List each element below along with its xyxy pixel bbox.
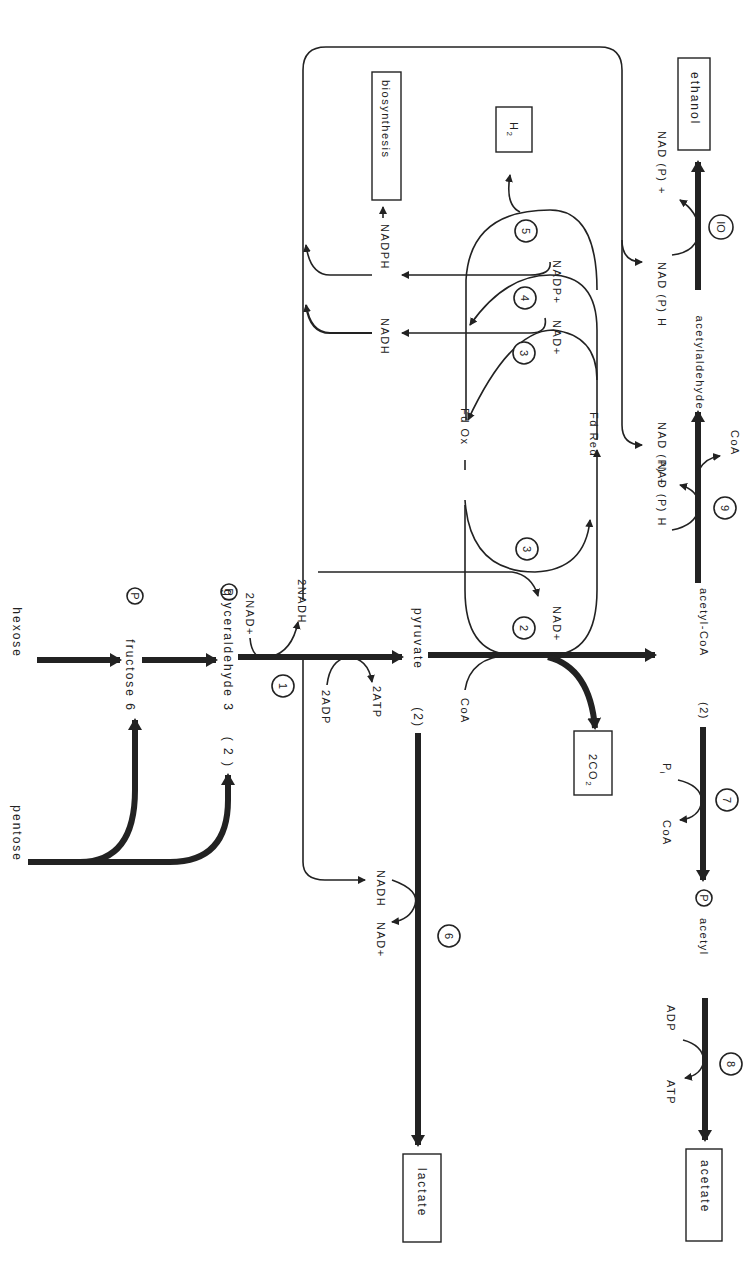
hexose-label: hexose [10,607,24,658]
svg-text:5: 5 [520,228,532,234]
enzyme-4: 4 [514,287,536,309]
nadp-plus-label-9: NAD (P) + [656,422,668,486]
pi-coa-arc-7 [678,780,702,820]
g3p-label: glyceraldehyde 3 [221,589,235,712]
nadh-top-label: NADH [379,318,391,355]
nadph-to-loop [306,245,372,275]
phosphate-marker-fructose: P [127,588,143,604]
nadh-loop-to-acetaldehyde-step [622,240,642,445]
acetyl-p-label: acetyl [698,918,710,956]
two-nad-plus-label: 2NAD+ [244,593,256,636]
svg-text:3: 3 [521,546,533,552]
two-atp-label: 2ATP [371,686,383,719]
svg-text:2: 2 [518,625,530,631]
ethanol-label: ethanol [688,72,702,125]
enzyme-2: 2 [513,617,535,639]
adp-atp-arc-8 [683,1040,704,1078]
lactate-label: lactate [415,1168,429,1217]
pentose-label: pentose [10,805,24,862]
nadph-top-label: NADPH [379,224,391,270]
pi-label: Pi [658,763,673,775]
fd-red-label: Fd Red [588,412,600,457]
fd-ox-label: Fd Ox [459,408,471,445]
svg-text:6: 6 [443,933,455,939]
pentose-branch-arrows [28,720,228,862]
enzyme-8: 8 [720,1053,742,1075]
enzyme-10: IO [709,215,733,239]
nadph-out-arrow [402,262,550,275]
fd-arc-3-upper [468,330,597,420]
coa-out-label-7: CoA [661,820,673,846]
two-adp-label: 2ADP [320,690,332,725]
nadh-to-lactate-line [303,660,365,880]
biosynthesis-label: biosynthesis [380,80,392,159]
nadph-arc-10 [672,200,699,255]
two-acetylcoa-prefix: (2) [698,702,710,720]
svg-text:1: 1 [277,683,289,689]
nadph-arc-9 [672,485,699,530]
adp-label-8: ADP [665,1005,677,1032]
svg-text:IO: IO [715,221,727,233]
enzyme-3-upper: 3 [513,342,535,364]
svg-text:7: 7 [721,797,733,803]
nad-plus-label-4: NAD+ [551,320,563,356]
nadp-plus-label-10: NAD (P) + [656,131,668,195]
acetate-label: acetate [698,1160,712,1213]
svg-text:8: 8 [725,1061,737,1067]
svg-text:4: 4 [519,295,531,301]
coa-out-label-9: CoA [729,430,741,456]
enzyme-6: 6 [438,925,460,947]
svg-text:3: 3 [518,350,530,356]
nad-plus-label-2: NAD+ [551,606,563,642]
two-g3p-prefix: ( 2 ) [221,737,235,768]
two-pyruvate-prefix: (2) [411,707,425,728]
fermentation-pathway-diagram: 1 2 3 3 4 5 6 7 8 9 IO P P P hexose pent… [0,0,744,1278]
enzyme-9: 9 [714,497,736,519]
h2-release-arrow [509,175,520,212]
nadh-label-6: NADH [375,870,387,907]
acetaldehyde-label: acetylaldehyde [694,316,706,410]
enzyme-5: 5 [515,220,537,242]
pyruvate-label: pyruvate [411,608,425,670]
coa-input-label: CoA [459,698,471,724]
acetyl-coa-label: acetyl-CoA [698,588,710,657]
nad-reduction-arc-1 [250,622,298,658]
enzyme-7: 7 [716,789,738,811]
fd-arc-3-lower [465,500,590,572]
nadp-plus-label-5: NADP+ [551,260,563,305]
fd-arc-5 [466,210,597,420]
nadh-to-loop [306,305,372,333]
svg-text:P: P [129,592,141,599]
fructose-6p-label: fructose 6 [123,639,137,712]
two-nadh-label: 2NADH [296,579,308,624]
coa-input-arc [465,655,510,690]
phosphate-marker-acetyl: P [696,890,712,906]
enzyme-1: 1 [272,675,294,697]
svg-text:9: 9 [719,505,731,511]
svg-text:P: P [698,894,710,901]
nadph-label-10: NAD (P) H [656,262,668,327]
coa-release-arc-9 [699,456,720,470]
atp-label-8: ATP [665,1080,677,1105]
nadh-loop-to-ethanol-step [303,47,642,600]
co2-release-arrow [548,657,595,728]
nad-plus-arrow-3 [512,572,538,596]
adp-to-atp-arc [327,657,372,685]
nadh-oxidation-arc-6 [392,880,416,922]
nad-plus-label-6: NAD+ [375,922,387,958]
enzyme-3-lower: 3 [516,538,538,560]
